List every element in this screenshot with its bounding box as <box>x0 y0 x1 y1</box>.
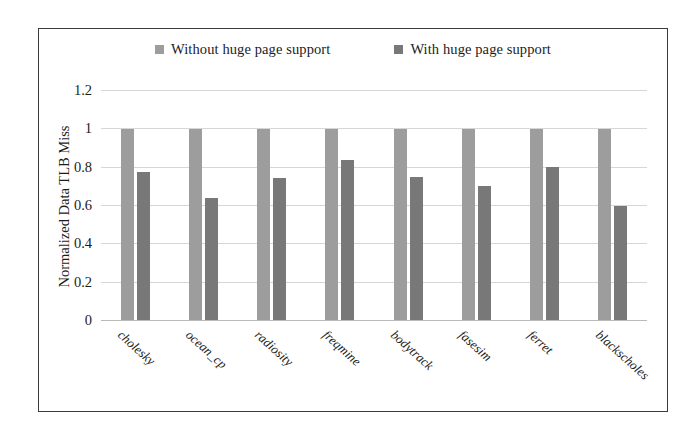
x-axis-label-slot: ferret <box>511 321 579 413</box>
x-axis-tick-label: radiosity <box>251 327 296 370</box>
bar <box>273 178 286 321</box>
x-axis-tick-label: ferret <box>524 327 556 358</box>
bar-group <box>442 91 510 321</box>
bar-groups <box>101 91 647 321</box>
x-axis-label-slot: fasesim <box>442 321 510 413</box>
bar <box>394 129 407 321</box>
y-axis-tick-label: 0 <box>85 312 92 329</box>
bar-group <box>374 91 442 321</box>
bar <box>257 129 270 321</box>
y-axis-title: Normalized Data TLB Miss <box>53 91 75 321</box>
x-axis-tick-label: fasesim <box>456 327 496 365</box>
legend-swatch-icon <box>394 45 403 54</box>
x-axis-category-labels: choleskyocean_cpradiosityfreqminebodytra… <box>101 321 647 413</box>
y-axis-tick-label: 0.8 <box>74 158 92 175</box>
chart-figure: Without huge page support With huge page… <box>38 28 668 412</box>
y-axis-title-label: Normalized Data TLB Miss <box>56 125 73 287</box>
bar <box>137 172 150 322</box>
x-axis-tick-label: cholesky <box>114 327 158 369</box>
bar <box>189 129 202 321</box>
x-axis-label-slot: radiosity <box>238 321 306 413</box>
bar <box>410 177 423 321</box>
x-axis-tick-label: ocean_cp <box>183 327 231 372</box>
bar-group <box>579 91 647 321</box>
y-axis-tick-label: 1 <box>85 120 92 137</box>
legend-label: With huge page support <box>410 41 551 58</box>
legend-label: Without huge page support <box>171 41 330 58</box>
x-axis-label-slot: freqmine <box>306 321 374 413</box>
bar <box>546 167 559 321</box>
bar <box>530 129 543 321</box>
x-axis-label-slot: blackscholes <box>579 321 647 413</box>
bar <box>598 129 611 321</box>
chart-legend: Without huge page support With huge page… <box>39 41 667 58</box>
y-axis-tick-label: 0.4 <box>74 235 92 252</box>
legend-entry-with-huge-page-support: With huge page support <box>394 41 551 58</box>
y-axis-tick-label: 1.2 <box>74 82 92 99</box>
x-axis-tick-label: blackscholes <box>592 327 652 383</box>
bar <box>205 198 218 321</box>
bar <box>341 160 354 321</box>
bar-group <box>101 91 169 321</box>
y-axis-tick-label: 0.6 <box>74 197 92 214</box>
x-axis-label-slot: bodytrack <box>374 321 442 413</box>
bar-group <box>169 91 237 321</box>
bar <box>121 129 134 321</box>
x-axis-tick-label: bodytrack <box>387 327 436 374</box>
x-axis-label-slot: ocean_cp <box>169 321 237 413</box>
bar-group <box>511 91 579 321</box>
legend-swatch-icon <box>155 45 164 54</box>
bar-group <box>306 91 374 321</box>
plot-area: 1.210.80.60.40.20 <box>101 91 647 321</box>
bar <box>325 129 338 321</box>
x-axis-tick-label: freqmine <box>319 327 364 369</box>
bar-group <box>238 91 306 321</box>
x-axis-label-slot: cholesky <box>101 321 169 413</box>
y-axis-tick-label: 0.2 <box>74 273 92 290</box>
bar <box>462 129 475 321</box>
legend-entry-without-huge-page-support: Without huge page support <box>155 41 330 58</box>
bar <box>614 206 627 321</box>
bar <box>478 186 491 321</box>
